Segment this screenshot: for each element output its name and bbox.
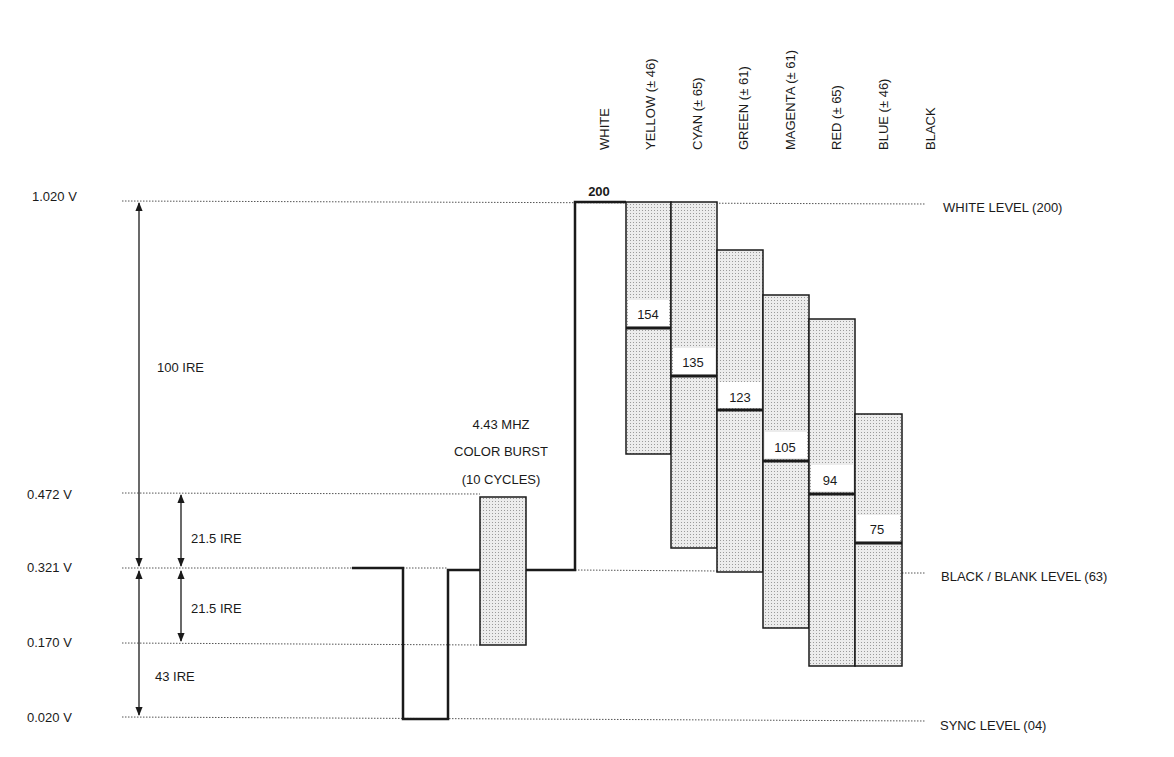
line-black-level-right	[575, 570, 717, 571]
color-bars	[626, 202, 902, 666]
line-0472	[122, 493, 480, 494]
value-200: 200	[588, 184, 610, 199]
column-black: BLACK	[923, 107, 938, 150]
voltage-label-0020: 0.020 V	[27, 710, 72, 725]
value-94: 94	[823, 473, 837, 488]
waveform-line	[352, 568, 480, 719]
value-135: 135	[682, 355, 704, 370]
ire-label-21-5-lower: 21.5 IRE	[191, 601, 242, 616]
label-sync-level: SYNC LEVEL (04)	[940, 718, 1046, 733]
column-green: GREEN (± 61)	[736, 66, 751, 150]
voltage-label-0321: 0.321 V	[27, 560, 72, 575]
color-burst-box	[480, 497, 526, 645]
label-black-level: BLACK / BLANK LEVEL (63)	[941, 569, 1107, 584]
waveform-diagram: 1.020 V 0.472 V 0.321 V 0.170 V 0.020 V …	[0, 0, 1174, 757]
value-154: 154	[637, 307, 659, 322]
column-magenta: MAGENTA (± 61)	[783, 50, 798, 150]
ire-label-100: 100 IRE	[157, 360, 204, 375]
value-75: 75	[870, 522, 884, 537]
column-cyan: CYAN (± 65)	[690, 77, 705, 150]
burst-label-cycles: (10 CYCLES)	[462, 472, 541, 487]
ire-label-43: 43 IRE	[155, 669, 195, 684]
column-red: RED (± 65)	[829, 85, 844, 150]
line-sync-level	[122, 717, 925, 721]
column-white: WHITE	[597, 108, 612, 150]
voltage-label-0472: 0.472 V	[27, 487, 72, 502]
column-yellow: YELLOW (± 46)	[643, 58, 658, 150]
label-white-level: WHITE LEVEL (200)	[943, 200, 1062, 215]
column-blue: BLUE (± 46)	[876, 79, 891, 150]
value-105: 105	[774, 440, 796, 455]
value-123: 123	[729, 390, 751, 405]
burst-label-freq: 4.43 MHZ	[472, 417, 529, 432]
line-white-level	[122, 201, 925, 204]
line-0170	[122, 643, 480, 645]
voltage-label-1020: 1.020 V	[32, 189, 77, 204]
burst-label-name: COLOR BURST	[454, 444, 548, 459]
waveform-line-after-burst	[526, 202, 626, 570]
ire-label-21-5-upper: 21.5 IRE	[191, 531, 242, 546]
voltage-label-0170: 0.170 V	[27, 635, 72, 650]
